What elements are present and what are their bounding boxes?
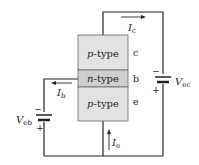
ib-label: Ib — [56, 87, 66, 100]
terminal-c-label: c — [133, 47, 138, 58]
ie-label: Ie — [111, 137, 120, 150]
vec-minus-sign: − — [152, 66, 160, 76]
base-material-label: n-type — [87, 73, 119, 84]
veb-plus-sign: + — [36, 123, 44, 133]
veb-label: Veb — [16, 114, 32, 127]
collector-material-label: p-type — [87, 48, 119, 59]
veb-battery: − + Veb — [16, 104, 52, 133]
vec-plus-sign: + — [152, 85, 160, 95]
transistor: p-type n-type p-type c b e — [78, 35, 139, 121]
vec-battery: − + Vec — [152, 66, 190, 95]
emitter-material-label: p-type — [87, 98, 119, 109]
ib-arrowhead-icon — [51, 81, 56, 85]
vec-label: Vec — [175, 76, 190, 89]
terminal-e-label: e — [133, 96, 139, 107]
terminal-b-label: b — [133, 73, 139, 84]
circuit-diagram: p-type n-type p-type c b e Ic Ib Ie − + … — [0, 0, 199, 165]
ic-label: Ic — [127, 22, 136, 35]
ie-arrowhead-icon — [107, 129, 111, 134]
ic-arrowhead-icon — [141, 15, 146, 19]
veb-minus-sign: − — [34, 104, 42, 114]
